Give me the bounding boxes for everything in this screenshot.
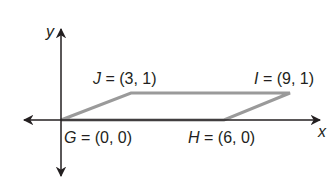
vertex-coords-J: = (3, 1) [101, 70, 157, 87]
x-axis-label: x [317, 123, 327, 140]
coordinate-plane: y x J = (3, 1) I = (9, 1) G = (0, 0) H =… [0, 0, 336, 181]
vertex-label-H: H = (6, 0) [188, 129, 255, 146]
vertex-label-I: I = (9, 1) [254, 70, 314, 87]
vertex-coords-H: = (6, 0) [200, 129, 256, 146]
vertex-name-H: H [188, 129, 200, 146]
vertex-label-J: J = (3, 1) [92, 70, 157, 87]
parallelogram-GHIJ [61, 93, 290, 120]
vertex-coords-I: = (9, 1) [258, 70, 314, 87]
vertex-label-G: G = (0, 0) [64, 129, 132, 146]
y-axis-label: y [45, 23, 55, 40]
vertex-name-G: G [64, 129, 76, 146]
vertex-coords-G: = (0, 0) [76, 129, 132, 146]
